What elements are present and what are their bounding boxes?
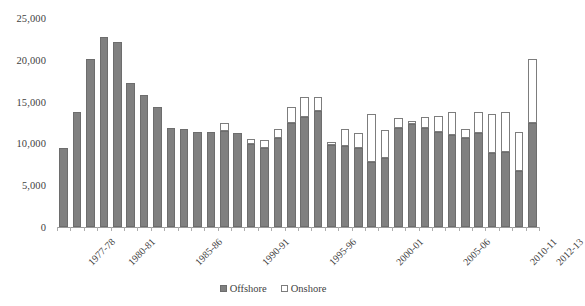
- bar-group[interactable]: [488, 114, 497, 227]
- bar-group[interactable]: [381, 130, 390, 227]
- bar-group[interactable]: [421, 117, 430, 227]
- bar-group[interactable]: [461, 129, 470, 227]
- bar-segment-offshore: [367, 162, 376, 227]
- bar-segment-offshore: [448, 135, 457, 227]
- bar-group[interactable]: [408, 121, 417, 227]
- bar-group[interactable]: [100, 37, 109, 227]
- bar-group[interactable]: [367, 114, 376, 227]
- x-tick: [57, 227, 58, 231]
- bar-group[interactable]: [207, 132, 216, 227]
- plot-area: [57, 18, 539, 227]
- bar-group[interactable]: [247, 139, 256, 227]
- bar-group[interactable]: [434, 116, 443, 227]
- bar-segment-offshore: [140, 95, 149, 227]
- bar-group[interactable]: [126, 83, 135, 227]
- y-tick-label: 20,000: [17, 54, 46, 65]
- bar-segment-offshore: [126, 83, 135, 227]
- x-tick-label: 2005-06: [460, 236, 491, 267]
- bar-segment-offshore: [153, 107, 162, 227]
- bar-segment-offshore: [341, 146, 350, 227]
- y-tick-label: 5,000: [22, 180, 46, 191]
- bar-group[interactable]: [59, 148, 68, 227]
- bar-group[interactable]: [327, 142, 336, 227]
- x-tick-label: 1995-96: [326, 236, 357, 267]
- bar-segment-onshore: [434, 116, 443, 132]
- bar-segment-onshore: [501, 112, 510, 151]
- bar-segment-onshore: [408, 121, 417, 124]
- y-axis: 05,00010,00015,00020,00025,000: [0, 0, 52, 306]
- bar-segment-offshore: [207, 132, 216, 227]
- bar-group[interactable]: [113, 42, 122, 227]
- bar-segment-offshore: [434, 132, 443, 227]
- bar-group[interactable]: [515, 132, 524, 227]
- bar-segment-offshore: [180, 129, 189, 227]
- filled-square-icon: [220, 285, 227, 292]
- bar-segment-offshore: [421, 128, 430, 227]
- x-axis-ticks: [57, 227, 539, 232]
- bar-series-container: [57, 18, 539, 227]
- bar-group[interactable]: [341, 129, 350, 227]
- hollow-square-icon: [281, 285, 288, 292]
- bar-group[interactable]: [528, 59, 537, 227]
- x-tick: [445, 227, 446, 231]
- bar-segment-offshore: [408, 124, 417, 227]
- bar-segment-offshore: [354, 148, 363, 227]
- bar-group[interactable]: [73, 112, 82, 227]
- x-tick-label: 1990-91: [260, 236, 291, 267]
- bar-group[interactable]: [474, 112, 483, 227]
- y-tick-label: 0: [41, 222, 46, 233]
- bar-group[interactable]: [448, 112, 457, 227]
- bar-group[interactable]: [354, 133, 363, 227]
- bar-group[interactable]: [220, 123, 229, 228]
- legend-entry[interactable]: Onshore: [281, 283, 327, 294]
- bar-segment-onshore: [448, 112, 457, 135]
- bar-group[interactable]: [180, 129, 189, 227]
- bar-segment-onshore: [287, 107, 296, 122]
- x-tick: [218, 227, 219, 231]
- x-tick: [298, 227, 299, 231]
- bar-segment-offshore: [220, 131, 229, 227]
- bar-group[interactable]: [314, 97, 323, 227]
- bar-group[interactable]: [140, 95, 149, 227]
- bar-segment-onshore: [220, 123, 229, 131]
- bar-segment-offshore: [247, 144, 256, 227]
- x-tick-label: 1980-81: [126, 236, 157, 267]
- x-tick: [84, 227, 85, 231]
- x-tick-label: 1977-78: [85, 236, 116, 267]
- bar-group[interactable]: [300, 97, 309, 227]
- bar-segment-offshore: [274, 138, 283, 227]
- bar-segment-offshore: [193, 132, 202, 227]
- bar-segment-offshore: [501, 152, 510, 227]
- legend-label: Onshore: [291, 283, 327, 294]
- bar-segment-onshore: [354, 133, 363, 148]
- bar-segment-offshore: [314, 111, 323, 227]
- bar-group[interactable]: [233, 133, 242, 227]
- x-tick-label: 2010-11: [527, 236, 558, 267]
- x-tick: [472, 227, 473, 231]
- bar-group[interactable]: [394, 118, 403, 227]
- bar-segment-offshore: [300, 117, 309, 227]
- x-tick: [285, 227, 286, 231]
- bar-segment-onshore: [528, 59, 537, 123]
- bar-group[interactable]: [86, 59, 95, 227]
- bar-group[interactable]: [501, 112, 510, 227]
- bar-group[interactable]: [193, 132, 202, 227]
- x-tick: [526, 227, 527, 231]
- y-tick-label: 25,000: [17, 13, 46, 24]
- bar-group[interactable]: [274, 129, 283, 227]
- x-tick: [392, 227, 393, 231]
- bar-group[interactable]: [153, 107, 162, 227]
- chart-legend: OffshoreOnshore: [0, 283, 546, 294]
- bar-segment-offshore: [515, 171, 524, 227]
- x-tick: [271, 227, 272, 231]
- x-tick: [352, 227, 353, 231]
- y-tick-label: 10,000: [17, 138, 46, 149]
- legend-entry[interactable]: Offshore: [220, 283, 267, 294]
- bar-segment-offshore: [260, 148, 269, 227]
- bar-group[interactable]: [287, 107, 296, 227]
- bar-group[interactable]: [167, 128, 176, 227]
- bar-group[interactable]: [260, 140, 269, 227]
- x-tick: [338, 227, 339, 231]
- x-tick: [311, 227, 312, 231]
- bar-segment-onshore: [488, 114, 497, 152]
